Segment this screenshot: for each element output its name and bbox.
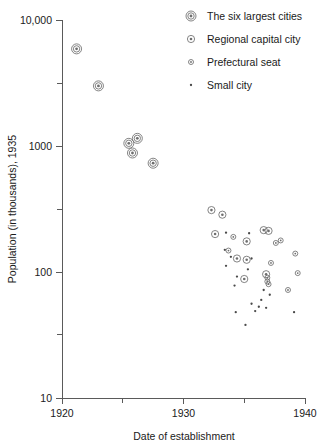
marker-core-dot <box>136 137 139 140</box>
marker-core-dot <box>232 236 234 238</box>
point-six_largest <box>72 44 82 54</box>
series-prefectural_seat <box>226 234 300 292</box>
legend-label-regional_capital: Regional capital city <box>207 33 301 45</box>
point-regional_capital <box>241 275 248 282</box>
legend-label-prefectural_seat: Prefectural seat <box>207 56 281 68</box>
scatter-chart-figure: 10,000100010010192019301940 The six larg… <box>0 0 325 447</box>
marker-dot <box>236 275 238 277</box>
legend-label-six_largest: The six largest cities <box>207 10 302 22</box>
legend-marker-regional_capital <box>187 35 194 42</box>
point-small_city <box>254 310 256 312</box>
axis-tick-labels: 10,000100010010192019301940 <box>20 14 317 419</box>
point-small_city <box>230 256 232 258</box>
marker-core-dot <box>268 283 270 285</box>
point-regional_capital <box>243 256 250 263</box>
marker-dot <box>258 306 260 308</box>
marker-core-dot <box>210 209 213 212</box>
marker-core-dot <box>190 15 193 18</box>
marker-core-dot <box>243 278 246 281</box>
marker-dot <box>250 257 252 259</box>
marker-core-dot <box>190 38 193 41</box>
point-prefectural_seat <box>295 271 300 276</box>
marker-core-dot <box>275 242 277 244</box>
marker-dot <box>230 256 232 258</box>
marker-core-dot <box>214 233 217 236</box>
marker-core-dot <box>190 61 192 63</box>
axis-spine <box>62 20 305 398</box>
point-six_largest <box>93 81 103 91</box>
marker-core-dot <box>228 250 230 252</box>
point-prefectural_seat <box>293 251 298 256</box>
marker-core-dot <box>270 262 272 264</box>
point-small_city <box>263 289 265 291</box>
point-small_city <box>235 311 237 313</box>
point-regional_capital <box>211 230 218 237</box>
point-regional_capital <box>208 206 215 213</box>
y-tick-label: 10,000 <box>20 14 52 26</box>
marker-core-dot <box>280 240 282 242</box>
point-small_city <box>236 275 238 277</box>
point-small_city <box>225 232 227 234</box>
marker-dot <box>254 310 256 312</box>
y-tick-label: 10 <box>40 392 52 404</box>
marker-core-dot <box>236 257 239 260</box>
marker-core-dot <box>221 213 224 216</box>
point-small_city <box>269 294 271 296</box>
point-small_city <box>224 249 226 251</box>
legend-item-prefectural_seat[interactable]: Prefectural seat <box>189 56 281 68</box>
y-tick-label: 1000 <box>29 140 53 152</box>
point-small_city <box>250 303 252 305</box>
marker-core-dot <box>287 289 289 291</box>
marker-dot <box>263 289 265 291</box>
marker-dot <box>250 303 252 305</box>
marker-dot <box>225 265 227 267</box>
marker-core-dot <box>245 240 248 243</box>
x-axis-title: Date of establishment <box>133 430 235 442</box>
point-prefectural_seat <box>226 248 231 253</box>
marker-dot <box>293 311 295 313</box>
marker-core-dot <box>267 230 270 233</box>
marker-dot <box>225 232 227 234</box>
marker-dot <box>190 84 192 86</box>
point-regional_capital <box>233 255 240 262</box>
point-regional_capital <box>263 271 270 278</box>
marker-core-dot <box>245 258 248 261</box>
marker-core-dot <box>127 142 130 145</box>
legend-marker-six_largest <box>186 11 196 21</box>
marker-core-dot <box>75 47 78 50</box>
marker-dot <box>233 284 235 286</box>
chart-canvas: 10,000100010010192019301940 The six larg… <box>0 0 325 447</box>
legend-marker-prefectural_seat <box>189 60 194 65</box>
marker-core-dot <box>294 253 296 255</box>
legend-item-regional_capital[interactable]: Regional capital city <box>187 33 301 45</box>
series-six_largest <box>72 44 159 168</box>
point-prefectural_seat <box>273 240 278 245</box>
y-axis-title: Population (in thousands), 1935 <box>6 135 18 283</box>
marker-dot <box>235 311 237 313</box>
legend-item-six_largest[interactable]: The six largest cities <box>186 10 302 22</box>
series-regional_capital <box>208 206 272 282</box>
marker-core-dot <box>266 277 268 279</box>
point-six_largest <box>148 158 158 168</box>
point-small_city <box>258 306 260 308</box>
point-six_largest <box>132 133 142 143</box>
point-small_city <box>225 265 227 267</box>
x-tick-label: 1940 <box>293 407 317 419</box>
marker-core-dot <box>297 272 299 274</box>
point-small_city <box>247 268 249 270</box>
point-small_city <box>293 311 295 313</box>
point-small_city <box>233 284 235 286</box>
legend-item-small_city[interactable]: Small city <box>190 79 253 91</box>
marker-dot <box>248 232 250 234</box>
point-small_city <box>244 324 246 326</box>
point-six_largest <box>127 148 137 158</box>
marker-core-dot <box>131 152 134 155</box>
marker-core-dot <box>152 162 155 165</box>
point-small_city <box>250 257 252 259</box>
marker-dot <box>260 299 262 301</box>
chart-legend: The six largest citiesRegional capital c… <box>186 10 302 91</box>
axis-ticks <box>56 20 305 404</box>
point-regional_capital <box>243 238 250 245</box>
point-regional_capital <box>219 211 226 218</box>
series-small_city <box>224 232 296 327</box>
